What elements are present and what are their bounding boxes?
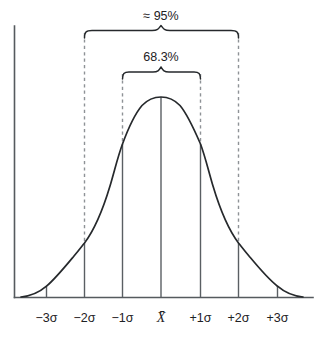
axis-label-pos2sigma: +2σ (228, 311, 250, 325)
axis-label-neg3sigma: −3σ (36, 311, 58, 325)
brace-inner-683 (123, 67, 201, 79)
normal-curve-chart: ≈ 95% 68.3% −3σ −2σ −1σ X̄ +1σ +2σ +3σ (0, 0, 325, 338)
axis-label-mean: X̄ (156, 310, 166, 325)
axis-label-neg2sigma: −2σ (74, 311, 96, 325)
label-inner-percent: 68.3% (143, 50, 178, 64)
normal-distribution-figure: ≈ 95% 68.3% −3σ −2σ −1σ X̄ +1σ +2σ +3σ (0, 0, 325, 338)
brace-outer-95 (85, 26, 239, 39)
label-outer-percent: ≈ 95% (143, 9, 178, 23)
axis-label-pos3sigma: +3σ (267, 311, 289, 325)
axis-label-neg1sigma: −1σ (112, 311, 134, 325)
bell-curve-path (21, 97, 303, 297)
axis-label-pos1sigma: +1σ (190, 311, 212, 325)
